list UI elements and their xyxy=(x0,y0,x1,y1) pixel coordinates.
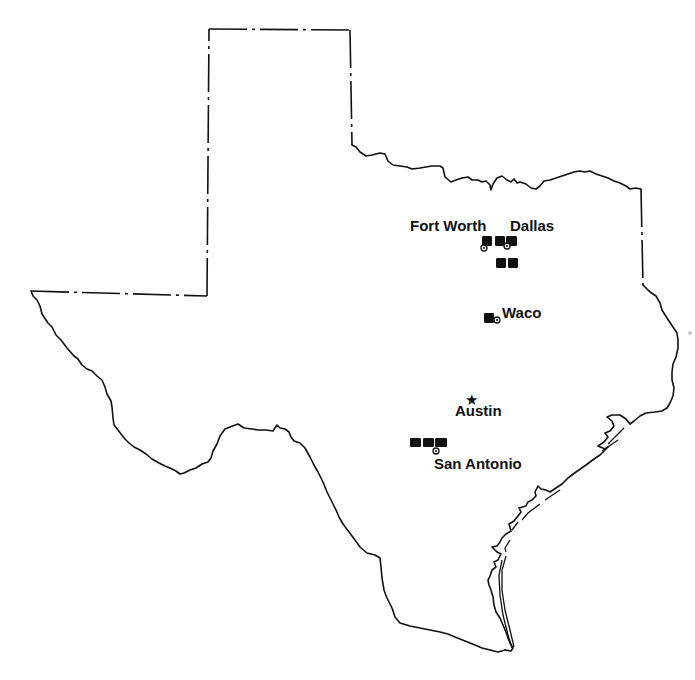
panhandle-west-border xyxy=(207,29,209,296)
city-label-waco: Waco xyxy=(502,304,541,321)
city-label-dallas: Dallas xyxy=(510,217,554,234)
ring-center-icon xyxy=(435,450,437,452)
facility-marker-icon xyxy=(410,438,421,447)
ring-center-icon xyxy=(506,245,508,247)
sabine-river-border xyxy=(630,285,678,424)
gulf-coastline xyxy=(488,415,630,651)
ring-center-icon xyxy=(483,247,485,249)
louisiana-border xyxy=(641,189,643,285)
facility-marker-icon xyxy=(423,438,434,447)
facility-marker-icon xyxy=(435,438,447,447)
barrier-island xyxy=(505,540,510,552)
texas-map: ★ Fort Worth Dallas Waco Austin San Anto… xyxy=(0,0,695,680)
facility-marker-icon xyxy=(484,313,494,323)
city-label-san-antonio: San Antonio xyxy=(434,455,522,472)
red-river-border xyxy=(352,145,641,190)
city-label-austin: Austin xyxy=(455,402,502,419)
city-markers xyxy=(410,236,518,454)
facility-marker-icon xyxy=(495,236,505,246)
scan-speck xyxy=(688,331,692,335)
facility-marker-icon xyxy=(508,258,518,268)
new-mexico-south-border xyxy=(31,291,207,296)
facility-marker-icon xyxy=(496,258,506,268)
panhandle-east-border xyxy=(350,30,352,145)
ring-center-icon xyxy=(496,319,498,321)
city-label-fort-worth: Fort Worth xyxy=(410,217,486,234)
panhandle-north-border xyxy=(209,29,350,30)
barrier-island xyxy=(512,522,518,530)
